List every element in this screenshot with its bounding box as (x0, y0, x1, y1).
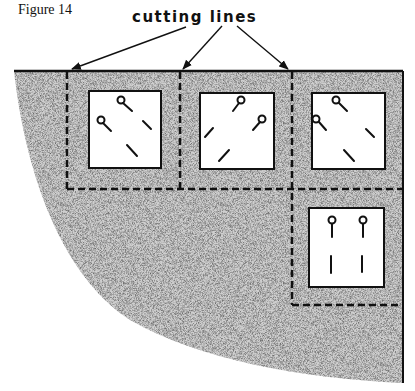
piece-3-square (312, 93, 385, 169)
piece-4-square (309, 208, 384, 287)
piece-2-square (200, 93, 274, 169)
piece-1-square (89, 91, 161, 168)
leaf-diagram (0, 0, 415, 391)
callout-arrows (72, 26, 288, 69)
